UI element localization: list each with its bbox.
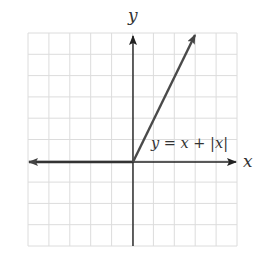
y-axis-label: y bbox=[127, 5, 138, 25]
equation-label: y = x + |x| bbox=[150, 135, 228, 152]
function-graph: y x y = x + |x| bbox=[0, 0, 262, 264]
x-axis-label: x bbox=[243, 151, 253, 171]
